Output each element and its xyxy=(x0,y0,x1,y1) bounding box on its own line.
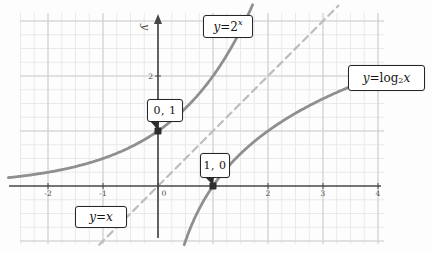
y-axis-name: y xyxy=(139,23,152,31)
x-tick-label: 3 xyxy=(321,189,326,198)
point-marker-point-1-0 xyxy=(210,183,217,190)
y-tick-label: 2 xyxy=(148,72,153,81)
x-tick-label: -1 xyxy=(99,189,106,198)
function-graph-figure: -2-102342y y = 2xy = log2 xy = x0, 11, 0 xyxy=(0,0,433,254)
x-tick-label: 0 xyxy=(162,189,167,198)
x-tick-label: 2 xyxy=(266,189,271,198)
x-tick-label: -2 xyxy=(44,189,52,198)
plot-canvas: -2-102342y xyxy=(0,0,433,254)
x-tick-label: 4 xyxy=(376,189,381,198)
curve-identity xyxy=(99,6,338,245)
y-axis-arrow xyxy=(154,14,162,24)
point-marker-point-0-1 xyxy=(155,128,162,135)
